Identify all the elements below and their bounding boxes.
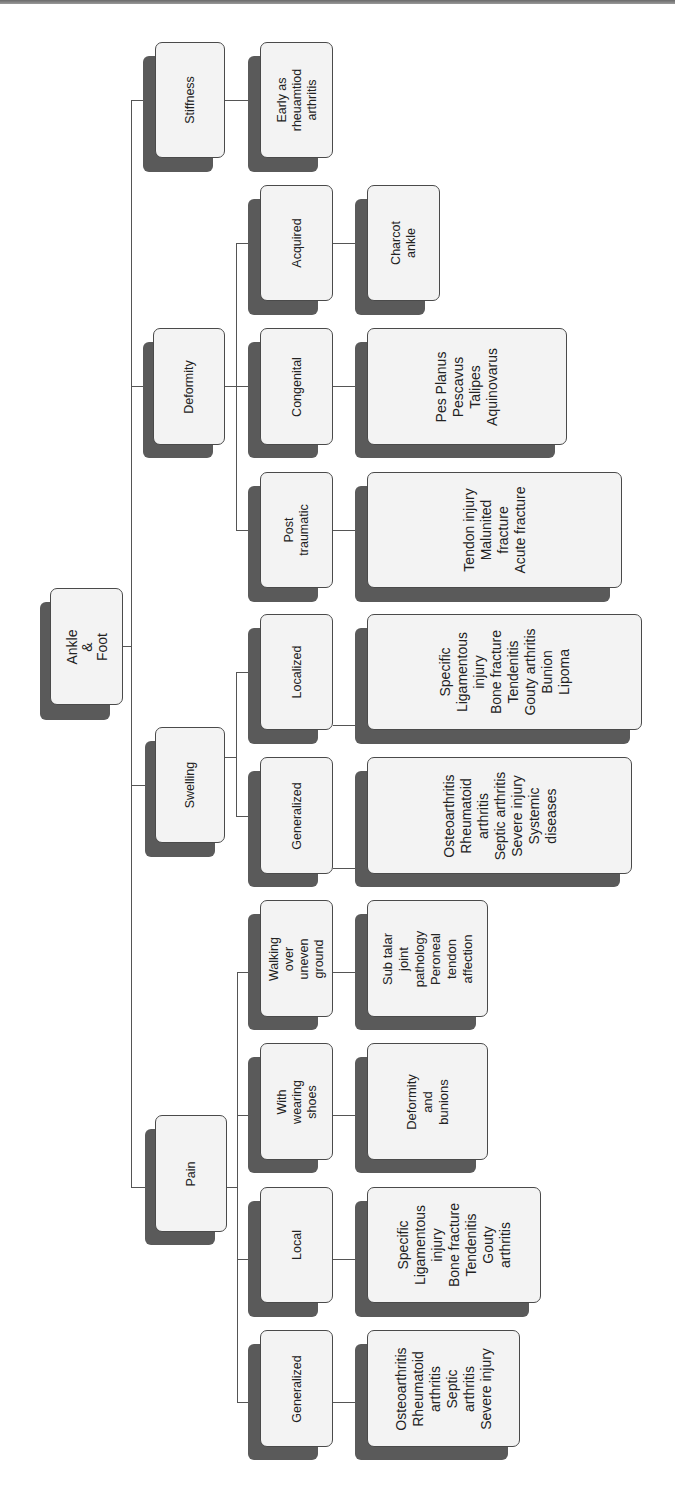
shoes-detail-text: Deformity and bunions [404,1072,452,1132]
sw-generalized-label: Generalized [289,782,304,849]
localized-label: Localized [289,646,304,699]
connector-root [123,646,132,647]
local-label: Local [289,1230,304,1260]
acquired-detail-text: Charcot ankle [389,221,419,265]
acquired-label: Acquired [289,218,304,267]
pain-label: Pain [184,1161,199,1186]
local-detail-text: Specific Ligamentous injury Bone fractur… [395,1202,514,1288]
congenital-detail-text: Pes Planus Pescavus Talipes Aquinovarus [433,348,501,426]
connector-deformity-spine [236,243,237,531]
sw-generalized-detail-text: Osteoarthritis Rheumatoid arthritis Sept… [440,771,559,860]
posttraumatic-detail-text: Tendon injury Malunited fracture Acute f… [461,486,529,573]
connector-swelling-spine [236,672,237,816]
pain-generalized-label: Generalized [289,1355,304,1422]
stiffness-detail-text: Early as rheuamtiod arthritis [274,69,319,132]
congenital-label: Congenital [289,357,304,417]
root-label: Ankle & Foot [64,629,109,665]
walking-detail-text: Sub talar joint pathology Peroneal tendo… [380,929,476,989]
page-top-rule [0,0,675,4]
swelling-label: Swelling [183,762,198,809]
connector-swelling-out [225,757,237,758]
posttraumatic-label: Post traumatic [282,504,312,555]
connector-pain-out [227,1187,238,1188]
pain-generalized-detail-text: Osteoarthritis Rheumatoid arthritis Sept… [393,1347,495,1430]
stiffness-label: Stiffness [183,76,198,124]
walking-label: Walking over uneven ground [267,937,327,981]
deformity-label: Deformity [182,360,197,413]
shoes-label: With wearing shoes [274,1080,319,1124]
localized-detail-text: Specific Ligamentous injury Bone fractur… [437,628,573,715]
connector-root-spine [131,100,132,1188]
